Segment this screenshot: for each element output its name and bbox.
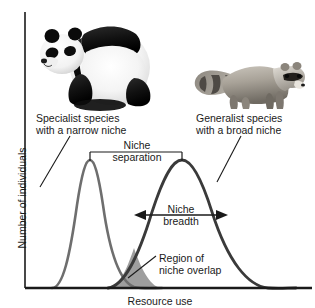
label-niche-separation-line2: separation [107, 151, 167, 163]
label-niche-breadth: Niche breadth [152, 203, 210, 227]
label-region-overlap-line2: niche overlap [159, 264, 221, 276]
label-niche-breadth-line2: breadth [152, 215, 210, 227]
label-generalist-line2: with a broad niche [196, 124, 282, 136]
label-specialist-species: Specialist species with a narrow niche [36, 112, 126, 136]
label-region-of-niche-overlap: Region of niche overlap [159, 252, 221, 276]
x-axis-label: Resource use [95, 295, 225, 307]
y-axis-label: Number of individuals [16, 123, 28, 273]
label-generalist-species: Generalist species with a broad niche [196, 112, 282, 136]
label-niche-breadth-line1: Niche [152, 203, 210, 215]
label-generalist-line1: Generalist species [196, 112, 282, 124]
label-niche-separation-line1: Niche [107, 139, 167, 151]
label-region-overlap-line1: Region of [159, 252, 221, 264]
niche-diagram-figure: Specialist species with a narrow niche G… [0, 0, 315, 308]
label-niche-separation: Niche separation [107, 139, 167, 163]
label-specialist-line1: Specialist species [36, 112, 126, 124]
label-specialist-line2: with a narrow niche [36, 124, 126, 136]
